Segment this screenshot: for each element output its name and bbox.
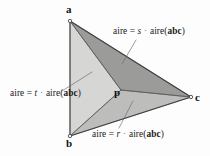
region-group — [70, 21, 191, 136]
area-label-bottom-coefficient: r — [117, 129, 121, 139]
area-label-bottom: aire = r · aire(abc) — [92, 130, 164, 139]
area-label-top: aire = s · aire(abc) — [113, 27, 185, 36]
vertex-label-a: a — [66, 4, 72, 15]
vertex-label-p: p — [114, 87, 120, 98]
area-label-left-areafn: aire( — [46, 88, 64, 98]
area-label-left-close: ) — [78, 88, 81, 98]
area-label-left-coefficient: t — [35, 88, 38, 98]
area-label-top-equals: = — [130, 26, 135, 36]
area-label-top-dot: · — [144, 26, 148, 35]
area-label-bottom-triangle: abc — [146, 129, 160, 139]
area-label-bottom-close: ) — [161, 129, 164, 139]
area-label-bottom-areafn: aire( — [129, 129, 147, 139]
area-barycentric-figure: a b c p aire = s · aire(abc) aire = t · … — [0, 0, 210, 156]
area-label-top-close: ) — [182, 26, 185, 36]
area-label-left-dot: · — [40, 88, 44, 97]
area-label-left-triangle: abc — [63, 88, 77, 98]
area-label-top-triangle: abc — [167, 26, 181, 36]
area-label-left-prefix: aire — [10, 88, 24, 98]
area-label-top-prefix: aire — [113, 26, 127, 36]
area-label-left: aire = t · aire(abc) — [10, 89, 81, 98]
area-label-bottom-dot: · — [123, 129, 127, 138]
vertex-dot-c — [189, 95, 192, 98]
area-label-bottom-prefix: aire — [92, 129, 106, 139]
area-label-left-equals: = — [27, 88, 32, 98]
area-label-top-coefficient: s — [138, 26, 142, 36]
vertex-label-c: c — [195, 92, 200, 103]
area-label-top-areafn: aire( — [150, 26, 168, 36]
vertex-label-b: b — [66, 138, 72, 149]
vertex-dot-a — [68, 19, 71, 22]
area-label-bottom-equals: = — [109, 129, 114, 139]
